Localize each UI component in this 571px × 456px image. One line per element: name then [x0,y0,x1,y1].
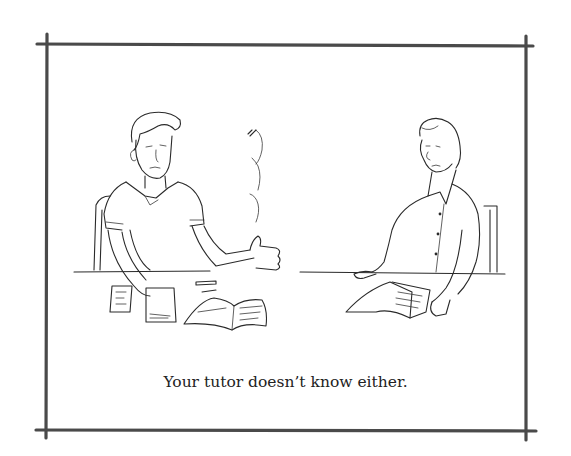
ghost-squiggles [248,130,262,222]
right-chair [484,206,497,272]
student-figure [354,118,480,316]
cartoon-caption: Your tutor doesn’t know either. [0,373,571,391]
shirt-button [437,233,440,236]
open-book-right [346,282,430,318]
note-card [110,286,132,312]
shirt-button [439,213,442,216]
tutor-figure [104,112,280,296]
pen [196,281,216,292]
left-chair [94,196,110,270]
shirt-button [435,253,438,256]
open-book-center [184,298,267,330]
papers-stack [146,288,176,322]
